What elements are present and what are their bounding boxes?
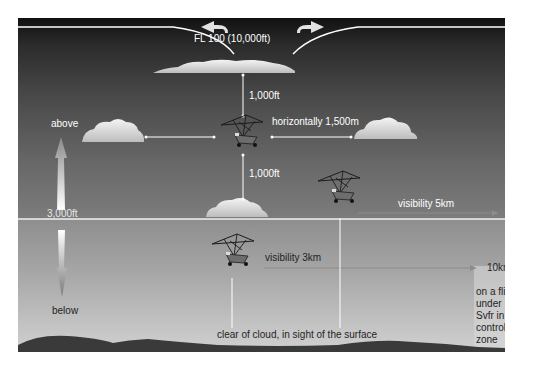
vertical-separation-above-label: 1,000ft xyxy=(249,90,280,102)
curved-arrow-left-icon xyxy=(201,21,228,33)
fl100-label: FL 100 (10,000ft) xyxy=(194,33,270,45)
cloud-icon xyxy=(153,60,295,73)
vertical-separation-below-label: 1,000ft xyxy=(249,168,280,180)
svfr-note-line: zone xyxy=(476,334,505,346)
vfr-minima-diagram: FL 100 (10,000ft) 1,000ft 1,000ft horizo… xyxy=(18,18,505,352)
microlight-trike-icon xyxy=(212,234,254,266)
cloud-icon xyxy=(354,117,417,139)
svfr-note-line: on a flight xyxy=(476,286,505,298)
cloud-icon xyxy=(206,198,268,217)
microlight-trike-icon xyxy=(318,171,360,203)
diagram-graphics xyxy=(18,18,505,352)
arrow-down-icon xyxy=(57,230,67,297)
visibility-3km-label: visibility 3km xyxy=(265,252,321,264)
curved-arrow-right-icon xyxy=(297,21,324,33)
svfr-note-line: under xyxy=(476,298,505,310)
svfr-note-line: controlled xyxy=(476,322,505,334)
svfr-note-line: Svfr in a xyxy=(476,310,505,322)
cloud-icon xyxy=(82,119,144,142)
horizontal-separation-label: horizontally 1,500m xyxy=(272,116,359,128)
visibility-5km-label: visibility 5km xyxy=(398,198,454,210)
clear-of-cloud-label: clear of cloud, in sight of the surface xyxy=(217,329,377,341)
visibility-10km-label: 10km xyxy=(487,262,505,274)
above-label: above xyxy=(51,118,78,130)
svfr-note: on a flight under Svfr in a controlled z… xyxy=(476,286,505,346)
below-label: below xyxy=(52,305,78,317)
microlight-trike-icon xyxy=(221,115,263,147)
3000ft-label: 3,000ft xyxy=(47,208,78,220)
arrow-up-icon xyxy=(55,137,67,210)
